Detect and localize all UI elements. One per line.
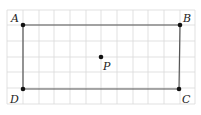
- label-c: C: [182, 93, 191, 106]
- label-p: P: [102, 60, 111, 73]
- point-c: C: [177, 87, 191, 106]
- label-d: D: [9, 93, 19, 106]
- geometry-diagram: A B C D P: [0, 0, 201, 115]
- point-p: P: [99, 55, 111, 73]
- label-a: A: [10, 12, 19, 25]
- label-b: B: [182, 12, 191, 25]
